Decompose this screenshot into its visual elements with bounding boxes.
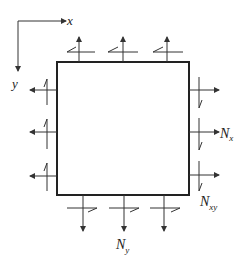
x-axis-label: x [66, 13, 73, 28]
bottom-force-1 [67, 195, 97, 231]
right-force-3 [189, 161, 219, 191]
top-force-1 [67, 37, 95, 62]
bottom-edge-forces [67, 195, 180, 231]
y-axis-label: y [10, 76, 18, 91]
label-nxy: Nxy [199, 194, 217, 212]
right-edge-forces [189, 77, 219, 191]
top-force-2 [108, 37, 138, 62]
right-force-2 [189, 118, 219, 150]
plate-element [57, 62, 189, 195]
left-edge-forces [30, 79, 57, 191]
left-force-3 [30, 163, 57, 191]
left-force-2 [30, 119, 57, 149]
bottom-force-2 [109, 195, 139, 231]
coordinate-axes: x y [10, 13, 73, 91]
top-force-3 [153, 37, 183, 62]
label-ny: Ny [115, 237, 129, 255]
right-force-1 [189, 77, 219, 108]
top-edge-forces [67, 37, 183, 62]
bottom-force-3 [150, 195, 180, 231]
left-force-1 [30, 79, 57, 105]
label-nx: Nx [219, 126, 233, 143]
plate-force-diagram: x y [0, 0, 244, 262]
